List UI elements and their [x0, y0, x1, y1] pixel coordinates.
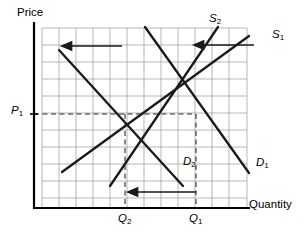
demand-curve-d1-label: D1 [256, 156, 269, 168]
supply-demand-figure: Price Quantity S2 S1 D2 D1 P1 Q2 Q1 [0, 0, 307, 235]
s1-letter: S [272, 28, 280, 40]
p1-letter: P [11, 104, 19, 116]
q2-subscript: 2 [127, 217, 131, 226]
quantity-tick-label-q1: Q1 [189, 212, 202, 224]
s2-subscript: 2 [217, 17, 221, 26]
y-axis-label: Price [17, 6, 43, 18]
s1-subscript: 1 [280, 33, 284, 42]
p1-subscript: 1 [19, 109, 23, 118]
q1-letter: Q [189, 212, 198, 224]
supply-curve-s1 [62, 36, 249, 172]
q1-subscript: 1 [198, 217, 202, 226]
demand-shift-arrow [62, 42, 122, 50]
price-tick-label: P1 [11, 104, 23, 116]
shift-arrows [62, 41, 254, 196]
quantity-tick-label-q2: Q2 [118, 212, 131, 224]
supply-shift-arrow [194, 41, 254, 49]
quantity-decrease-arrow [128, 188, 196, 196]
grid [42, 28, 247, 208]
curves [59, 27, 249, 186]
equilibrium-guides [34, 114, 196, 208]
supply-curve-s2-label: S2 [209, 12, 221, 24]
d2-subscript: 2 [191, 160, 195, 169]
q2-letter: Q [118, 212, 127, 224]
s2-letter: S [209, 12, 217, 24]
demand-curve-d2-label: D2 [183, 155, 196, 167]
x-axis-label: Quantity [249, 198, 292, 210]
supply-curve-s1-label: S1 [272, 28, 284, 40]
d1-subscript: 1 [264, 161, 268, 170]
demand-curve-d2 [59, 50, 183, 186]
